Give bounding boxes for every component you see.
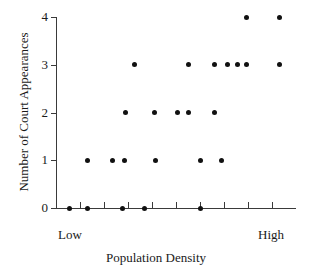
scatter-point bbox=[277, 62, 282, 67]
scatter-point bbox=[277, 15, 282, 20]
scatter-point bbox=[198, 158, 203, 163]
y-axis-tick bbox=[51, 113, 57, 114]
scatter-point bbox=[186, 62, 191, 67]
scatter-point bbox=[244, 62, 249, 67]
y-axis-tick-label: 1 bbox=[34, 153, 48, 166]
scatter-point bbox=[186, 110, 191, 115]
scatter-point bbox=[67, 206, 72, 211]
y-axis-tick-label: 0 bbox=[34, 201, 48, 214]
scatter-point bbox=[212, 62, 217, 67]
scatter-point bbox=[120, 206, 125, 211]
x-axis-tick bbox=[128, 202, 129, 209]
scatter-point bbox=[244, 15, 249, 20]
scatter-point bbox=[110, 158, 115, 163]
x-axis-tick bbox=[104, 202, 105, 209]
y-axis-tick bbox=[51, 17, 57, 18]
y-axis-tick bbox=[51, 208, 57, 209]
x-axis-low-label: Low bbox=[58, 227, 82, 243]
scatter-point bbox=[123, 110, 128, 115]
x-axis-tick bbox=[224, 202, 225, 209]
scatter-point bbox=[152, 110, 157, 115]
x-axis-tick bbox=[152, 202, 153, 209]
scatter-plot-figure: 01234 Low High Population Density Number… bbox=[0, 0, 312, 275]
x-axis-tick bbox=[176, 202, 177, 209]
y-axis-tick bbox=[51, 160, 57, 161]
y-axis-title: Number of Court Appearances bbox=[16, 12, 32, 212]
x-axis-tick bbox=[80, 202, 81, 209]
y-axis-tick-label: 3 bbox=[34, 58, 48, 71]
scatter-point bbox=[132, 62, 137, 67]
y-axis-tick-label: 2 bbox=[34, 106, 48, 119]
y-axis-tick-label: 4 bbox=[34, 10, 48, 23]
scatter-point bbox=[175, 110, 180, 115]
scatter-point bbox=[85, 206, 90, 211]
y-axis-tick bbox=[51, 65, 57, 66]
scatter-point bbox=[142, 206, 147, 211]
scatter-point bbox=[198, 206, 203, 211]
scatter-point bbox=[85, 158, 90, 163]
x-axis-tick bbox=[272, 202, 273, 209]
x-axis-title: Population Density bbox=[0, 250, 312, 266]
scatter-point bbox=[212, 110, 217, 115]
scatter-point bbox=[122, 158, 127, 163]
scatter-point bbox=[153, 158, 158, 163]
x-axis-high-label: High bbox=[258, 227, 284, 243]
x-axis-tick bbox=[248, 202, 249, 209]
scatter-point bbox=[235, 62, 240, 67]
scatter-point bbox=[219, 158, 224, 163]
scatter-point bbox=[225, 62, 230, 67]
